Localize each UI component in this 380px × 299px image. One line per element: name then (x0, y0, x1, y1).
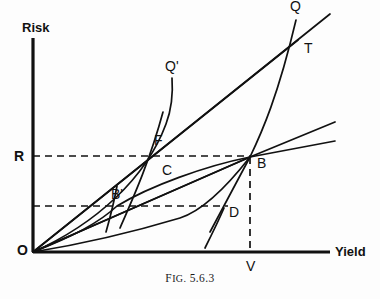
point-label-bp: B' (111, 187, 123, 201)
caption-smallcaps: IG. (172, 273, 186, 284)
ray-O-through-B-lower (33, 141, 335, 252)
curves-layer (33, 14, 335, 252)
point-label-f: F (154, 133, 163, 147)
figure-container: Risk Yield QTQ'FCRBB'DVO FIG. 5.6.3 (0, 0, 380, 299)
point-label-d: D (229, 205, 239, 219)
point-label-q: Q (290, 0, 301, 13)
point-label-t: T (304, 41, 313, 55)
y-axis-label: Risk (22, 21, 49, 34)
axes-layer (33, 38, 330, 252)
figure-caption: FIG. 5.6.3 (0, 272, 380, 284)
point-label-v: V (246, 259, 255, 273)
point-label-qp: Q' (165, 59, 179, 73)
curve-D-tail (205, 208, 224, 248)
x-axis-label: Yield (335, 245, 366, 258)
risk-yield-diagram (0, 0, 380, 299)
point-label-c: C (162, 163, 172, 177)
point-label-b: B (257, 156, 266, 170)
point-label-r: R (14, 149, 24, 163)
caption-number: 5.6.3 (190, 272, 215, 284)
point-label-o: O (17, 243, 28, 257)
